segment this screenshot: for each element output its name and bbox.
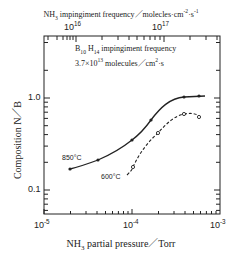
y-tick-label-1.0: 1.0: [28, 92, 41, 102]
annotation-line2: 3.7×1013 molecules／cm2·s: [75, 57, 164, 68]
series-850C-markers: [68, 94, 200, 170]
left-axis-ticks: [44, 43, 50, 211]
x-tick-label-1e-3: 10-3: [210, 218, 226, 230]
series-label-850C: 850°C: [62, 154, 82, 161]
top-axis-ticks: [48, 36, 217, 42]
x-tick-label-1e-5: 10-5: [34, 218, 50, 230]
right-axis-ticks: [214, 43, 220, 211]
y-tick-label-0.1: 0.1: [28, 184, 41, 194]
series-600C-line: [127, 113, 199, 175]
series-600C-markers: [131, 112, 200, 168]
series-label-600C: 600°C: [101, 173, 121, 180]
annotation-line1: B10 H14 impingiment frequency: [75, 44, 176, 55]
x-tick-label-1e-4: 10-4: [123, 218, 139, 230]
bottom-axis-ticks: [44, 209, 216, 214]
x-axis-label: NH3 partial pressure／Torr: [0, 235, 242, 252]
